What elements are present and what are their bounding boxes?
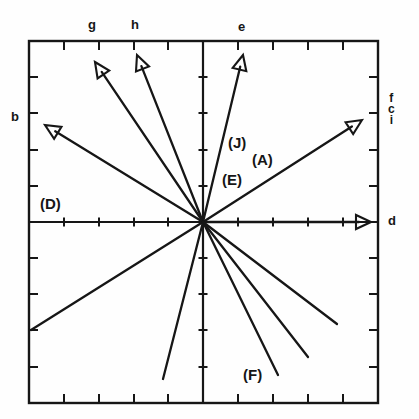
axis-label-i: i bbox=[388, 115, 395, 126]
vector-diagram-figure: g h e b d f c i (D)(J)(A)(E)(F) bbox=[0, 0, 419, 419]
vector-arrowhead-fci bbox=[346, 120, 362, 134]
annotation-f: (F) bbox=[243, 367, 262, 382]
axis-label-b: b bbox=[11, 110, 19, 123]
axis-label-stack-fci: f c i bbox=[388, 93, 395, 126]
axis-label-g: g bbox=[88, 18, 96, 31]
annotation-a: (A) bbox=[252, 152, 273, 167]
vector-shaft-v2 bbox=[163, 222, 203, 379]
annotation-j: (J) bbox=[228, 135, 246, 150]
annotation-d: (D) bbox=[40, 196, 61, 211]
vector-shaft-v3 bbox=[203, 222, 278, 375]
vector-shaft-b bbox=[55, 131, 203, 222]
plot-canvas bbox=[0, 0, 419, 419]
vector-arrowhead-h bbox=[136, 55, 149, 72]
vector-arrowhead-g bbox=[95, 62, 109, 78]
axis-label-h: h bbox=[131, 18, 139, 31]
vector-arrowhead-b bbox=[45, 125, 61, 139]
vector-shaft-v1 bbox=[31, 222, 203, 330]
axis-label-d: d bbox=[388, 214, 396, 227]
vector-arrowhead-e bbox=[233, 55, 247, 71]
annotation-e: (E) bbox=[222, 172, 242, 187]
axis-label-e: e bbox=[238, 20, 245, 33]
